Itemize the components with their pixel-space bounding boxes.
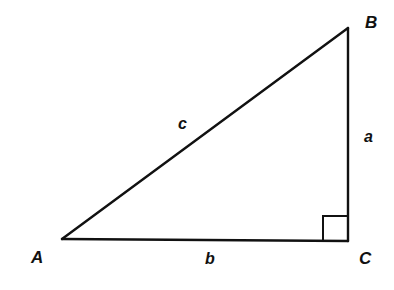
triangle-svg: A B C a b c <box>0 0 394 290</box>
side-label-b: b <box>205 250 215 267</box>
vertex-label-B: B <box>365 13 377 32</box>
vertex-label-C: C <box>359 249 372 268</box>
vertex-label-A: A <box>30 248 43 267</box>
side-label-c: c <box>178 115 187 132</box>
side-label-a: a <box>364 128 373 145</box>
side-c-hypotenuse <box>62 28 348 239</box>
right-angle-marker <box>323 216 348 241</box>
right-triangle-diagram: A B C a b c <box>0 0 394 290</box>
side-b-base <box>62 239 348 241</box>
